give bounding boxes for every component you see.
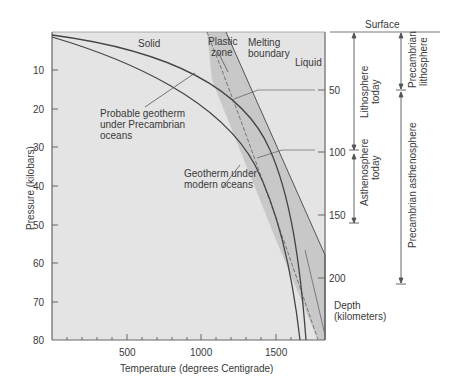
region-label-plastic: Plastic (208, 36, 237, 47)
modern-geotherm-label-1: Geotherm under (184, 168, 257, 179)
precambrian-geotherm-label-1: Probable geotherm (100, 108, 185, 119)
depth-tick-200: 200 (329, 273, 346, 284)
region-label-solid: Solid (138, 38, 160, 49)
depth-axis-title-2: (kilometers) (334, 311, 386, 322)
region-label-boundary: boundary (248, 48, 290, 59)
depth-tick-50: 50 (329, 85, 340, 96)
y-tick-20: 20 (33, 104, 44, 115)
lithosphere-today-label-2: today (370, 80, 381, 104)
depth-tick-150: 150 (329, 210, 346, 221)
x-tick-1500: 1500 (265, 347, 287, 358)
x-axis-title: Temperature (degrees Centigrade) (120, 363, 273, 374)
y-axis-title: Pressure (kilobars) (25, 146, 36, 230)
modern-geotherm-label-2: modern oceans (184, 179, 253, 190)
precambrian-lithosphere-label-2: lithosphere (418, 37, 429, 86)
precambrian-asthenosphere-label: Precambrian asthenosphere (407, 122, 418, 248)
y-tick-80: 80 (33, 335, 44, 346)
asthenosphere-today-label-2: today (370, 156, 381, 180)
surface-label: Surface (365, 19, 399, 30)
region-label-zone: zone (211, 47, 233, 58)
lithosphere-today-label-1: Lithosphere (359, 66, 370, 118)
x-tick-500: 500 (119, 347, 136, 358)
depth-axis-title-1: Depth (334, 300, 361, 311)
y-tick-70: 70 (33, 297, 44, 308)
asthenosphere-today-label-1: Asthenosphere (359, 139, 370, 206)
precambrian-lithosphere-label-1: Precambrian (407, 31, 418, 88)
region-label-liquid: Liquid (295, 57, 322, 68)
precambrian-geotherm-label-3: oceans (100, 130, 132, 141)
x-tick-1000: 1000 (190, 347, 212, 358)
depth-tick-100: 100 (329, 147, 346, 158)
y-tick-60: 60 (33, 258, 44, 269)
y-tick-10: 10 (33, 65, 44, 76)
precambrian-geotherm-label-2: under Precambrian (100, 119, 185, 130)
region-label-melting: Melting (248, 37, 280, 48)
